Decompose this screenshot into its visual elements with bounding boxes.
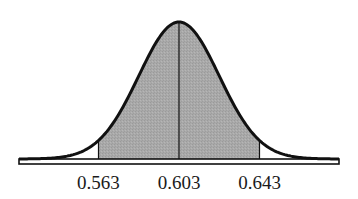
normal-distribution-chart: 0.563 0.603 0.643 bbox=[0, 0, 358, 199]
tick-label-mean: 0.603 bbox=[158, 172, 201, 193]
tick-label-lower: 0.563 bbox=[77, 172, 120, 193]
tick-label-upper: 0.643 bbox=[238, 172, 281, 193]
baseline-axis bbox=[19, 159, 339, 164]
